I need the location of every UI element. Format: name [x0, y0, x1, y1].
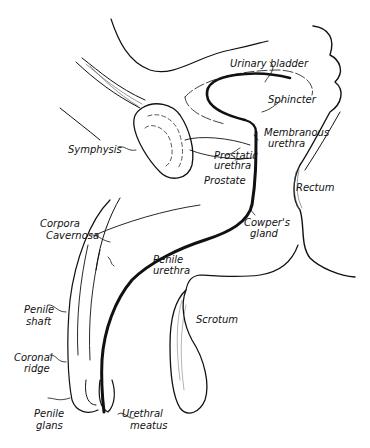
- label-scrotum: Scrotum: [196, 314, 238, 325]
- pubic-band-shading: [86, 64, 142, 106]
- urethra-anatomy-diagram: Urinary bladder Sphincter Membranous ure…: [0, 0, 370, 448]
- label-membranous-line2: urethra: [268, 138, 305, 149]
- label-glans-line1: Penile: [34, 408, 64, 419]
- label-sphincter: Sphincter: [268, 94, 316, 105]
- label-membranous-line1: Membranous: [264, 127, 329, 138]
- perineum-outline: [186, 245, 298, 290]
- label-penile-urethra-line2: urethra: [153, 265, 190, 276]
- label-cowpers-line2: gland: [250, 228, 278, 239]
- label-urinary-bladder: Urinary bladder: [230, 58, 308, 69]
- label-prostate: Prostate: [204, 175, 246, 186]
- pelvic-line: [60, 108, 100, 140]
- label-corpora-line2: Cavernosa: [46, 230, 99, 241]
- label-cowpers-line1: Cowper's: [244, 217, 290, 228]
- label-symphysis: Symphysis: [68, 144, 122, 155]
- label-penile-urethra-line1: Penile: [153, 254, 183, 265]
- scrotum-shading: [177, 300, 186, 390]
- symphysis: [134, 104, 193, 178]
- bladder-neck: [245, 120, 256, 132]
- rectum-wall: [305, 112, 340, 170]
- label-penile-shaft-line2: shaft: [26, 316, 51, 327]
- label-coronal-line1: Coronal: [14, 352, 53, 363]
- label-glans-line2: glans: [36, 420, 63, 431]
- label-corpora-line1: Corpora: [40, 218, 80, 229]
- scrotum: [170, 290, 207, 413]
- label-coronal-line2: ridge: [24, 363, 50, 374]
- pubic-band: [82, 58, 145, 100]
- label-prostatic-line2: urethra: [214, 160, 251, 171]
- label-meatus-line1: Urethral: [122, 408, 163, 419]
- label-rectum: Rectum: [296, 182, 335, 193]
- label-meatus-line2: meatus: [130, 420, 168, 431]
- label-penile-shaft-line1: Penile: [24, 304, 54, 315]
